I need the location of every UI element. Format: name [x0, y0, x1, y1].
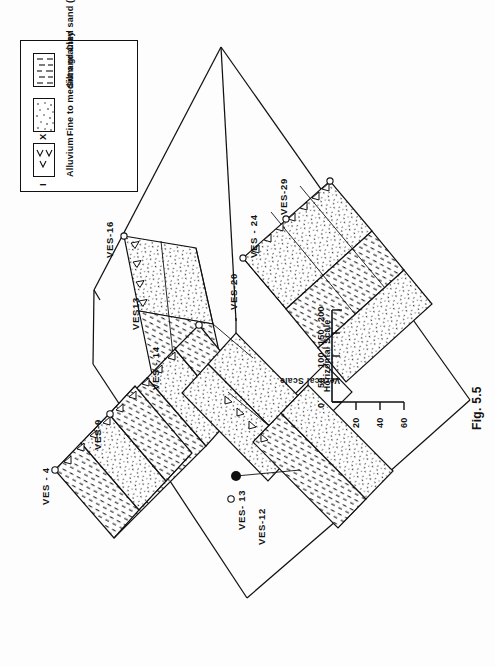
legend-swatch-alluvium [33, 143, 55, 177]
vertical-tick-40: 40 [375, 417, 385, 428]
legend-swatch-sand [33, 98, 55, 132]
legend-label-silt-clay: Silt and Clay [65, 31, 76, 88]
vertical-scale-title: Vertical Scale [280, 376, 340, 386]
scale-bars-artwork [286, 300, 406, 440]
index-legend: I N D E X Alluvium [20, 40, 138, 192]
well-label-ves-24: VES - 24 [248, 214, 259, 258]
well-label-ves-13-upper: VES13 [130, 297, 141, 330]
horizontal-tick-100: 100 [316, 352, 326, 368]
well-label-ves-9: VES-9 [92, 419, 103, 450]
legend-label-alluvium: Alluvium [65, 137, 76, 177]
well-label-ves-13-lower: VES- 13 [236, 490, 247, 530]
well-label-ves-16: VES-16 [104, 221, 115, 258]
well-label-ves-20: VES-20 [228, 273, 239, 310]
horizontal-tick-0: 0 [316, 403, 326, 408]
well-label-ves-4: VES - 4 [40, 467, 51, 505]
legend-swatch-silt-clay [33, 53, 55, 87]
vertical-tick-60: 60 [399, 417, 409, 428]
scale-block: Horizontal Scale 0 50 100 150 200 Vertic… [286, 300, 406, 440]
well-label-ves-29: VES-29 [278, 178, 289, 215]
horizontal-tick-150: 150 [316, 329, 326, 345]
well-label-ves-14: VES - 14 [150, 346, 161, 390]
figure-page: I N D E X Alluvium [0, 0, 495, 666]
figure-caption: Fig. 5.5 [470, 386, 484, 430]
horizontal-tick-200: 200 [316, 306, 326, 322]
vertical-tick-20: 20 [351, 417, 361, 428]
well-label-ves-12: VES-12 [256, 508, 267, 545]
